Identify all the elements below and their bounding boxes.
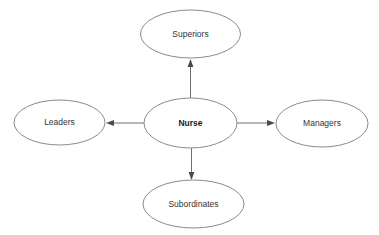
edge-nurse-subordinates [189, 148, 195, 180]
node-leaders[interactable]: Leaders [14, 100, 105, 145]
node-superiors-label: Superiors [172, 29, 208, 39]
relationship-diagram: Superiors Leaders Managers Subordinates … [0, 0, 379, 235]
edge-nurse-leaders [106, 120, 144, 126]
arrowhead-superiors-icon [188, 59, 194, 67]
arrowhead-managers-icon [267, 120, 275, 126]
node-leaders-label: Leaders [44, 117, 75, 127]
edge-nurse-superiors [188, 59, 194, 98]
node-managers-label: Managers [303, 118, 341, 128]
edge-nurse-managers [237, 120, 275, 126]
diagram-canvas: Superiors Leaders Managers Subordinates … [0, 0, 379, 235]
node-superiors[interactable]: Superiors [141, 10, 241, 58]
arrowhead-leaders-icon [106, 120, 114, 126]
arrowhead-subordinates-icon [189, 172, 195, 180]
node-subordinates-label: Subordinates [168, 199, 218, 209]
node-nurse-label: Nurse [178, 118, 202, 128]
node-subordinates[interactable]: Subordinates [143, 180, 244, 228]
node-managers[interactable]: Managers [276, 100, 368, 147]
node-nurse-center[interactable]: Nurse [144, 98, 237, 148]
